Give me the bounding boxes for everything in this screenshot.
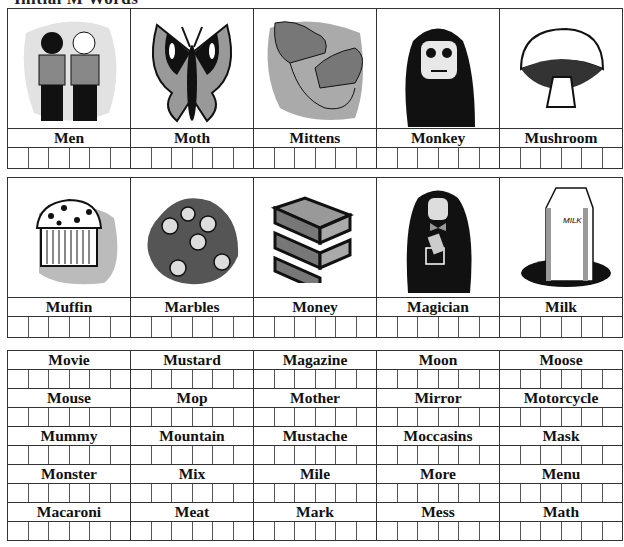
mushroom-icon <box>511 19 611 119</box>
picture-cell-moth <box>131 9 254 129</box>
letter-boxes[interactable] <box>131 484 253 502</box>
letter-boxes[interactable] <box>131 317 253 337</box>
word-label: Mix <box>131 465 254 484</box>
word-table: MovieMustardMagazineMoonMooseMouseMopMot… <box>7 350 623 541</box>
word-label: Movie <box>8 351 131 370</box>
marbles-icon <box>140 186 244 290</box>
letter-boxes[interactable] <box>377 522 499 540</box>
letter-boxes[interactable] <box>254 446 376 464</box>
mittens-icon <box>260 13 370 125</box>
letter-boxes[interactable] <box>377 148 499 168</box>
word-label: Moth <box>131 129 254 148</box>
word-label: Motorcycle <box>500 389 623 408</box>
muffin-icon <box>19 188 119 288</box>
milk-carton-icon: MILK <box>511 183 611 293</box>
letter-boxes[interactable] <box>254 408 376 426</box>
money-icon <box>265 193 365 283</box>
letter-boxes[interactable] <box>377 408 499 426</box>
picture-cell-magician <box>377 178 500 298</box>
word-label: Mountain <box>131 427 254 446</box>
word-label: Monkey <box>377 129 500 148</box>
word-label: Magician <box>377 298 500 317</box>
word-label: Math <box>500 503 623 522</box>
letter-boxes[interactable] <box>254 370 376 388</box>
picture-cell-mittens <box>254 9 377 129</box>
letter-boxes[interactable] <box>254 317 376 337</box>
picture-cell-money <box>254 178 377 298</box>
word-label: More <box>377 465 500 484</box>
word-label: Mummy <box>8 427 131 446</box>
letter-boxes[interactable] <box>377 317 499 337</box>
moth-icon <box>142 13 242 125</box>
letter-boxes[interactable] <box>131 370 253 388</box>
letter-boxes[interactable] <box>377 446 499 464</box>
word-label: Meat <box>131 503 254 522</box>
picture-cell-men <box>8 9 131 129</box>
letter-boxes[interactable] <box>500 522 622 540</box>
letter-boxes[interactable] <box>131 148 253 168</box>
word-label: Money <box>254 298 377 317</box>
picture-cell-marbles <box>131 178 254 298</box>
word-label: Monster <box>8 465 131 484</box>
letter-boxes[interactable] <box>500 484 622 502</box>
picture-table-1: Men Moth Mittens Monkey Mushroom <box>7 8 623 169</box>
word-label: Mustache <box>254 427 377 446</box>
letter-boxes[interactable] <box>8 148 130 168</box>
letter-boxes[interactable] <box>8 370 130 388</box>
word-label: Mop <box>131 389 254 408</box>
word-label: Mouse <box>8 389 131 408</box>
letter-boxes[interactable] <box>500 148 622 168</box>
word-label: Muffin <box>8 298 131 317</box>
letter-boxes[interactable] <box>254 522 376 540</box>
picture-cell-muffin <box>8 178 131 298</box>
word-label: Mirror <box>377 389 500 408</box>
letter-boxes[interactable] <box>254 148 376 168</box>
word-label: Moose <box>500 351 623 370</box>
monkey-icon <box>383 11 493 127</box>
letter-boxes[interactable] <box>8 317 130 337</box>
picture-cell-mushroom <box>500 9 623 129</box>
letter-boxes[interactable] <box>8 522 130 540</box>
word-label: Milk <box>500 298 623 317</box>
letter-boxes[interactable] <box>254 484 376 502</box>
word-label: Mile <box>254 465 377 484</box>
word-label: Mother <box>254 389 377 408</box>
magician-icon <box>388 183 488 293</box>
word-label: Men <box>8 129 131 148</box>
word-label: Magazine <box>254 351 377 370</box>
picture-cell-milk: MILK <box>500 178 623 298</box>
word-label: Mess <box>377 503 500 522</box>
picture-cell-monkey <box>377 9 500 129</box>
word-label: Mark <box>254 503 377 522</box>
letter-boxes[interactable] <box>500 317 622 337</box>
word-label: Menu <box>500 465 623 484</box>
word-label: Mustard <box>131 351 254 370</box>
letter-boxes[interactable] <box>500 446 622 464</box>
word-label: Moon <box>377 351 500 370</box>
letter-boxes[interactable] <box>8 446 130 464</box>
word-label: Marbles <box>131 298 254 317</box>
letter-boxes[interactable] <box>8 484 130 502</box>
letter-boxes[interactable] <box>500 408 622 426</box>
word-label: Mask <box>500 427 623 446</box>
letter-boxes[interactable] <box>377 484 499 502</box>
word-label: Macaroni <box>8 503 131 522</box>
picture-table-2: MILK Muffin Marbles Money Magician Milk <box>7 177 623 338</box>
letter-boxes[interactable] <box>500 370 622 388</box>
word-label: Moccasins <box>377 427 500 446</box>
letter-boxes[interactable] <box>131 446 253 464</box>
letter-boxes[interactable] <box>377 370 499 388</box>
word-label: Mushroom <box>500 129 623 148</box>
word-label: Mittens <box>254 129 377 148</box>
svg-text:MILK: MILK <box>563 216 582 225</box>
letter-boxes[interactable] <box>8 408 130 426</box>
letter-boxes[interactable] <box>131 408 253 426</box>
letter-boxes[interactable] <box>131 522 253 540</box>
two-men-icon <box>14 13 124 125</box>
